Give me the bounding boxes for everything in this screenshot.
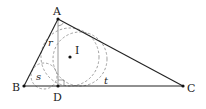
geometry-diagram: A B C D I r s t xyxy=(0,0,206,109)
point-c xyxy=(181,84,184,87)
incircle-abd xyxy=(31,63,57,89)
label-b: B xyxy=(12,81,20,94)
point-d xyxy=(56,84,59,87)
point-b xyxy=(22,84,25,87)
angle-arc-a xyxy=(58,22,64,26)
label-c: C xyxy=(187,82,195,95)
label-s: s xyxy=(36,71,41,82)
label-i: I xyxy=(75,44,79,57)
label-d: D xyxy=(53,91,62,104)
label-r: r xyxy=(48,37,54,48)
point-i xyxy=(68,55,71,58)
label-t: t xyxy=(104,75,109,86)
label-a: A xyxy=(52,5,62,18)
